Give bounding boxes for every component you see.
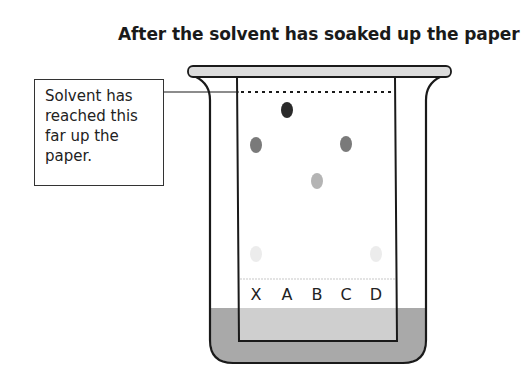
spot-d-faint xyxy=(370,246,382,262)
solvent-front-callout: Solvent has reached this far up the pape… xyxy=(34,79,164,186)
lane-label-x: X xyxy=(246,285,266,304)
spot-x-medium xyxy=(250,137,262,153)
callout-line-2: reached this xyxy=(45,106,163,126)
beaker-lid xyxy=(188,66,451,77)
lane-label-c: C xyxy=(336,285,356,304)
callout-line-4: paper. xyxy=(45,146,163,166)
spot-c-medium xyxy=(340,136,352,152)
lane-label-b: B xyxy=(307,285,327,304)
spot-a-dark xyxy=(281,102,293,118)
paper-solvent-region xyxy=(239,308,397,341)
lane-label-a: A xyxy=(277,285,297,304)
callout-line-1: Solvent has xyxy=(45,86,163,106)
callout-line-3: far up the xyxy=(45,126,163,146)
spot-b-light xyxy=(311,173,323,189)
chromatography-beaker-diagram xyxy=(0,0,522,387)
spot-x-faint xyxy=(250,246,262,262)
lane-label-d: D xyxy=(366,285,386,304)
